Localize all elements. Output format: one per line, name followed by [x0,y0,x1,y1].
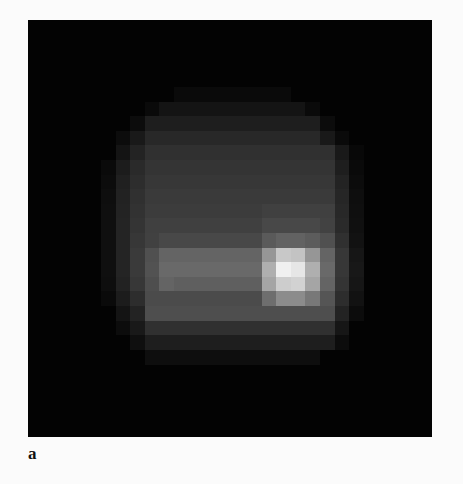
pixel-cell [276,116,291,131]
pixel-cell [305,262,320,277]
pixel-cell [130,262,145,277]
pixel-cell [320,131,335,146]
pixel-cell [218,262,233,277]
pixel-cell [203,218,218,233]
pixel-cell [276,175,291,190]
panel-label: a [28,444,37,464]
pixel-cell [349,189,364,204]
pixel-cell [247,350,262,365]
pixel-cell [232,204,247,219]
pixel-cell [232,277,247,292]
pixel-cell [101,233,116,248]
pixel-cell [247,262,262,277]
pixel-cell [145,131,160,146]
pixel-cell [189,160,204,175]
pixel-cell [335,233,350,248]
pixel-cell [305,248,320,263]
pixel-cell [335,306,350,321]
pixel-cell [262,262,277,277]
pixel-cell [262,248,277,263]
pixel-cell [349,204,364,219]
pixel-cell [276,350,291,365]
pixel-cell [305,189,320,204]
pixel-cell [291,321,306,336]
pixel-cell [276,321,291,336]
pixel-cell [174,335,189,350]
pixel-cell [320,233,335,248]
pixel-cell [145,233,160,248]
pixel-cell [203,189,218,204]
pixel-cell [159,145,174,160]
pixel-cell [130,335,145,350]
pixel-cell [189,335,204,350]
pixel-cell [218,277,233,292]
pixel-cell [174,131,189,146]
pixel-cell [174,102,189,117]
pixel-cell [320,248,335,263]
pixel-cell [232,160,247,175]
pixel-cell [203,291,218,306]
pixel-cell [320,116,335,131]
pixel-cell [218,248,233,263]
pixel-cell [145,291,160,306]
pixel-cell [247,87,262,102]
pixel-cell [276,277,291,292]
pixel-cell [189,204,204,219]
pixel-cell [218,350,233,365]
pixel-cell [203,204,218,219]
pixel-cell [116,218,131,233]
pixel-cell [320,306,335,321]
pixel-cell [291,175,306,190]
pixel-cell [232,248,247,263]
pixel-cell [262,233,277,248]
pixel-cell [174,160,189,175]
pixel-cell [320,218,335,233]
pixel-cell [145,321,160,336]
pixel-cell [320,189,335,204]
pixel-cell [174,350,189,365]
pixel-cell [262,87,277,102]
pixel-cell [276,248,291,263]
pixel-cell [116,306,131,321]
pixel-cell [189,350,204,365]
pixel-cell [276,291,291,306]
pixel-cell [232,175,247,190]
pixel-cell [159,291,174,306]
pixel-cell [203,233,218,248]
pixel-cell [130,116,145,131]
pixel-cell [130,306,145,321]
pixel-cell [159,262,174,277]
pixel-cell [335,248,350,263]
pixel-cell [159,102,174,117]
pixel-cell [101,248,116,263]
pixel-cell [218,87,233,102]
pixel-cell [145,350,160,365]
pixel-cell [174,277,189,292]
pixel-cell [116,131,131,146]
pixel-cell [145,102,160,117]
pixel-cell [335,291,350,306]
pixel-cell [232,116,247,131]
pixel-cell [262,321,277,336]
pixel-cell [203,306,218,321]
pixel-cell [276,189,291,204]
pixel-cell [159,204,174,219]
pixel-cell [262,291,277,306]
pixel-cell [305,204,320,219]
pixel-cell [247,218,262,233]
pixel-cell [262,218,277,233]
pixel-cell [159,175,174,190]
pixel-cell [101,291,116,306]
pixel-cell [130,291,145,306]
pixel-cell [145,218,160,233]
pixel-cell [159,160,174,175]
pixel-cell [349,160,364,175]
pixel-cell [174,204,189,219]
pixel-cell [159,131,174,146]
pixel-cell [130,277,145,292]
pixel-cell [145,160,160,175]
pixel-cell [291,277,306,292]
pixel-cell [305,175,320,190]
pixel-cell [335,175,350,190]
pixel-cell [305,335,320,350]
